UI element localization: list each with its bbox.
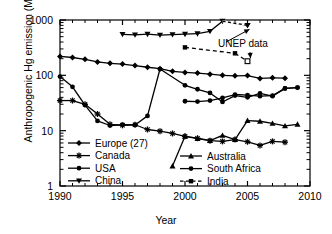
- data-point: [183, 99, 188, 104]
- annotation-arrowhead: [247, 53, 252, 58]
- y-tick-label: 1: [47, 180, 53, 192]
- data-point: [282, 75, 288, 81]
- chart-plot-area: 199019952000200520101101001000 Europe (2…: [0, 0, 332, 234]
- data-point: [220, 96, 225, 101]
- x-tick-label: 2005: [236, 190, 260, 202]
- data-point: [195, 70, 201, 76]
- series-usa: [58, 67, 300, 128]
- chart-figure: Anthropogenic Hg emission (Mg) Year 1990…: [0, 0, 332, 234]
- series-south-africa: [183, 85, 300, 104]
- data-point: [133, 123, 138, 128]
- data-point: [270, 75, 276, 81]
- data-point: [208, 98, 213, 103]
- series-canada: [57, 98, 288, 149]
- data-point: [132, 63, 138, 69]
- legend-label: India: [207, 176, 229, 187]
- y-tick-label: 100: [35, 69, 53, 81]
- data-point: [208, 91, 213, 96]
- legend-label: Canada: [95, 150, 130, 161]
- y-tick-label: 10: [41, 125, 53, 137]
- data-point: [76, 153, 82, 159]
- data-point: [170, 163, 176, 168]
- data-point: [76, 140, 82, 146]
- legend-label: USA: [95, 163, 116, 174]
- legend-item-south-africa[interactable]: South Africa: [180, 163, 261, 174]
- data-point: [245, 93, 250, 98]
- india-unep-open-point: [245, 59, 250, 64]
- data-point: [58, 74, 63, 79]
- data-point: [257, 75, 263, 81]
- data-point: [145, 113, 150, 118]
- data-point: [258, 94, 263, 99]
- data-point: [82, 56, 88, 62]
- unep-annotation-label: UNEP data: [218, 38, 268, 49]
- legend-label: China: [95, 175, 122, 186]
- data-point: [195, 87, 200, 92]
- data-point: [283, 86, 288, 91]
- data-point: [145, 126, 151, 132]
- data-point: [270, 138, 276, 144]
- x-tick-label: 2000: [173, 190, 197, 202]
- data-point: [232, 73, 238, 79]
- data-point: [183, 45, 187, 49]
- x-tick-label: 1995: [111, 190, 135, 202]
- data-point: [270, 93, 275, 98]
- data-point: [83, 103, 88, 108]
- data-point: [70, 98, 76, 104]
- data-point: [157, 128, 163, 134]
- data-point: [245, 139, 251, 145]
- data-point: [158, 67, 163, 72]
- y-tick-label: 1000: [30, 14, 54, 26]
- data-point: [120, 61, 126, 67]
- data-point: [220, 132, 226, 137]
- axis-tick-labels: 199019952000200520101101001000: [30, 14, 322, 202]
- data-point: [107, 60, 113, 66]
- legend-label: South Africa: [207, 163, 261, 174]
- data-point: [189, 166, 194, 171]
- legend-item-australia[interactable]: Australia: [180, 151, 246, 162]
- data-point: [95, 59, 101, 65]
- data-point: [257, 142, 263, 148]
- data-point: [145, 64, 151, 70]
- legend-item-europe-27[interactable]: Europe (27): [68, 138, 148, 149]
- data-point: [70, 55, 76, 61]
- legend-item-usa[interactable]: USA: [68, 163, 116, 174]
- data-point: [170, 68, 176, 74]
- legend-item-canada[interactable]: Canada: [68, 150, 130, 161]
- data-point: [120, 122, 125, 127]
- data-point: [182, 69, 188, 75]
- annotation-group: UNEP data: [218, 29, 268, 58]
- data-point: [95, 119, 100, 124]
- legend-label: Australia: [207, 151, 246, 162]
- data-point: [170, 130, 176, 136]
- data-point: [207, 71, 213, 77]
- data-point: [220, 138, 226, 144]
- data-point: [70, 84, 75, 89]
- data-point: [189, 179, 193, 183]
- data-point: [220, 72, 226, 78]
- legend-label: Europe (27): [95, 138, 148, 149]
- data-point: [108, 123, 113, 128]
- china-unep-dashed-segment: [223, 21, 251, 28]
- legend-item-india[interactable]: India: [180, 176, 229, 187]
- data-point: [295, 85, 300, 90]
- x-tick-label: 2010: [298, 190, 322, 202]
- legend-group: Europe (27)CanadaUSAChinaAustraliaSouth …: [68, 138, 261, 187]
- data-point: [195, 99, 200, 104]
- data-point: [233, 51, 237, 55]
- data-point: [282, 139, 288, 145]
- data-point: [183, 83, 188, 88]
- data-point: [77, 166, 82, 171]
- data-point: [95, 111, 101, 117]
- legend-item-china[interactable]: China: [68, 175, 122, 186]
- data-point: [57, 98, 63, 104]
- data-point: [233, 92, 238, 97]
- data-point: [245, 73, 251, 79]
